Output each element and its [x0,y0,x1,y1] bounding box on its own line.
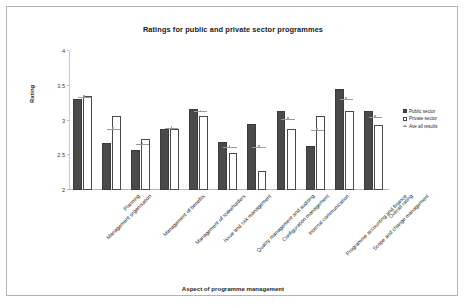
bar-public-sector [364,111,373,190]
legend-item-private[interactable]: Private sector [403,116,461,122]
x-axis-title: Aspect of programme management [7,285,459,292]
y-axis-tick-label: 2 [62,187,65,193]
y-axis-tick-mark [67,85,70,86]
y-axis-tick-label: 4 [62,48,65,54]
chart-legend: Public sectorPrivate sectorAve all resul… [403,108,461,131]
y-axis-tick-label: 3 [62,118,65,124]
ave-all-results-marker [223,147,236,148]
legend-item-label: Ave all results [409,124,438,129]
y-axis-tick-mark [67,50,70,51]
bar-group [98,51,127,190]
bar-group [185,51,214,190]
x-axis-category-label: Issue and risk management [222,193,272,243]
bar-group [331,51,360,190]
bar-private-sector [316,116,325,190]
bar-public-sector [189,109,198,190]
bar-private-sector [258,171,267,190]
bar-private-sector [287,129,296,190]
bar-private-sector [83,96,92,190]
bar-group [214,51,243,190]
bar-private-sector [345,111,354,190]
chart-frame: Ratings for public and private sector pr… [6,6,458,296]
ave-all-results-marker [340,99,353,100]
bar-group [244,51,273,190]
bar-private-sector [199,116,208,190]
ave-all-results-marker [281,119,294,120]
bar-private-sector [170,129,179,190]
ave-all-results-marker [107,129,120,130]
chart-title: Ratings for public and private sector pr… [7,25,459,34]
ave-all-results-marker [136,144,149,145]
plot-inner [69,51,389,190]
bar-public-sector [102,143,111,190]
ave-all-results-marker [252,147,265,148]
bar-public-sector [218,142,227,190]
legend-item-label: Public sector [409,109,435,114]
bar-group [360,51,389,190]
bar-group [69,51,98,190]
legend-swatch-icon [403,109,407,113]
legend-swatch-icon [403,117,407,121]
x-axis-category-label: Management of benefits [162,193,206,237]
ave-all-results-marker [311,130,324,131]
bar-group [127,51,156,190]
bar-private-sector [141,139,150,190]
bar-private-sector [229,153,238,190]
bar-public-sector [160,129,169,190]
bar-group [302,51,331,190]
ave-all-results-marker [165,128,178,129]
bar-public-sector [247,124,256,190]
ave-all-results-marker [369,117,382,118]
bar-group [273,51,302,190]
legend-swatch-icon [403,124,407,128]
y-axis-tick-mark [67,120,70,121]
bar-public-sector [306,146,315,190]
y-axis-tick-label: 3.5 [57,83,65,89]
y-axis-tick-mark [67,154,70,155]
bar-private-sector [374,125,383,190]
bar-group [156,51,185,190]
bar-public-sector [335,89,344,190]
ave-all-results-marker [194,111,207,112]
bar-public-sector [73,99,82,190]
plot-area: 22.533.54 [69,51,389,190]
y-axis-tick-mark [67,189,70,190]
bar-public-sector [131,150,140,190]
y-axis-title: Rating [29,85,35,103]
ave-all-results-marker [78,97,91,98]
legend-item-label: Private sector [409,116,437,121]
bar-public-sector [277,111,286,190]
legend-item-avg[interactable]: Ave all results [403,123,461,129]
legend-item-public[interactable]: Public sector [403,108,461,114]
y-axis-tick-label: 2.5 [57,152,65,158]
